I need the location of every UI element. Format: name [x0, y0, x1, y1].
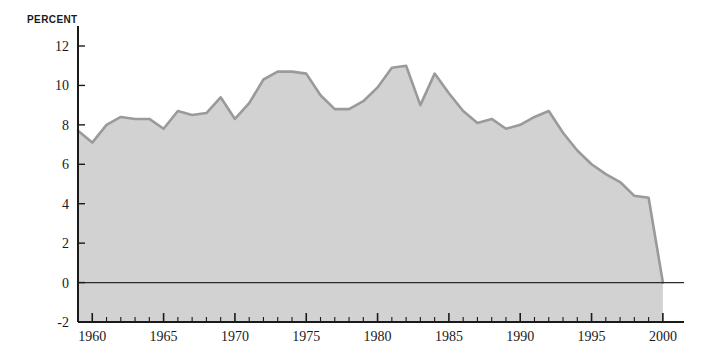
y-axis-tick-label: 10 — [55, 78, 69, 93]
y-axis-tick-label: 6 — [62, 157, 69, 172]
x-axis-tick-label: 1995 — [578, 329, 606, 344]
x-axis-tick-label: 1980 — [364, 329, 392, 344]
y-axis-tick-label: 2 — [62, 236, 69, 251]
x-axis-tick-label: 2000 — [649, 329, 677, 344]
y-axis-tick-label: 0 — [62, 276, 69, 291]
x-axis-tick-label: 1965 — [150, 329, 178, 344]
area-chart-plot: -202468101219601965197019751980198519901… — [0, 0, 706, 355]
x-axis-tick-label: 1960 — [78, 329, 106, 344]
area-fill — [78, 66, 663, 322]
y-axis-tick-label: -2 — [57, 315, 69, 330]
y-axis-tick-label: 12 — [55, 39, 69, 54]
x-axis-tick-label: 1970 — [221, 329, 249, 344]
x-axis-tick-label: 1975 — [292, 329, 320, 344]
chart-container: PERCENT -2024681012196019651970197519801… — [0, 0, 706, 355]
x-axis-tick-label: 1990 — [506, 329, 534, 344]
y-axis-tick-label: 4 — [62, 197, 69, 212]
y-axis-tick-label: 8 — [62, 118, 69, 133]
x-axis-tick-label: 1985 — [435, 329, 463, 344]
